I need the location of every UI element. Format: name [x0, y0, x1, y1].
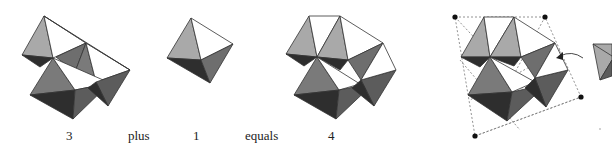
corner-dot	[452, 14, 457, 19]
label-op-plus: plus	[128, 128, 150, 144]
single-octahedron	[167, 18, 233, 83]
diagram-canvas	[0, 0, 612, 151]
octahedra-addition-diagram: 3 plus 1 equals 4	[0, 0, 612, 151]
tetrahedral-frame-with-4-octahedra	[452, 14, 612, 138]
label-result: 4	[328, 128, 335, 144]
cluster-of-4-octahedra	[286, 16, 396, 119]
label-term2: 1	[193, 128, 200, 144]
label-term1: 3	[66, 128, 73, 144]
corner-dot	[578, 94, 583, 99]
partial-octahedron	[593, 44, 612, 80]
cluster-of-3-octahedra	[22, 16, 130, 119]
corner-dot	[472, 133, 477, 138]
stray-mark	[599, 128, 601, 130]
label-op-equals: equals	[245, 128, 278, 144]
corner-dot	[542, 14, 547, 19]
